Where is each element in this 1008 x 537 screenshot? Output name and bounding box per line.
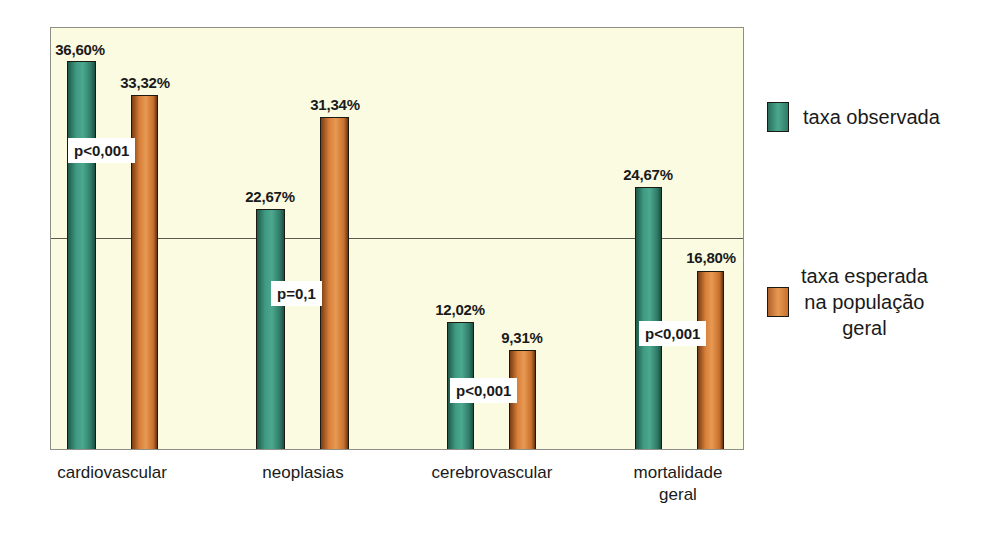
value-label-expected-neoplasias: 31,34% — [310, 96, 360, 113]
value-label-expected-cerebrovascular: 9,31% — [501, 329, 543, 346]
category-label-cardiovascular: cardiovascular — [57, 462, 167, 484]
category-label-neoplasias: neoplasias — [262, 462, 343, 484]
legend-label-expected: taxa esperada na população geral — [801, 263, 928, 341]
value-label-observed-cerebrovascular: 12,02% — [435, 301, 485, 318]
p-value-neoplasias: p=0,1 — [271, 281, 322, 306]
legend-label-line: na população — [801, 289, 928, 315]
category-label-mortalidade-geral: mortalidade geral — [634, 462, 723, 506]
legend-swatch-expected — [767, 287, 789, 317]
bar-expected-mortalidade-geral — [697, 271, 724, 449]
legend-item-observed: taxa observada — [767, 102, 940, 132]
legend-label-line: geral — [801, 315, 928, 341]
value-label-expected-mortalidade-geral: 16,80% — [686, 249, 736, 266]
p-value-cerebrovascular: p<0,001 — [450, 378, 517, 403]
p-value-cardiovascular: p<0,001 — [68, 138, 135, 163]
bar-observed-mortalidade-geral — [635, 187, 662, 449]
legend-label-line: taxa esperada — [801, 263, 928, 289]
bar-observed-neoplasias — [256, 209, 285, 449]
legend-swatch-observed — [767, 102, 789, 132]
category-label-line: mortalidade — [634, 462, 723, 484]
legend-label-observed: taxa observada — [803, 104, 940, 130]
bar-expected-neoplasias — [320, 117, 349, 449]
legend-item-expected: taxa esperada na população geral — [767, 263, 928, 341]
bar-observed-cardiovascular — [67, 61, 96, 449]
value-label-observed-neoplasias: 22,67% — [245, 188, 295, 205]
p-value-mortalidade-geral: p<0,001 — [639, 321, 706, 346]
value-label-observed-cardiovascular: 36,60% — [55, 41, 105, 58]
value-label-expected-cardiovascular: 33,32% — [120, 74, 170, 91]
value-label-observed-mortalidade-geral: 24,67% — [623, 166, 673, 183]
category-label-cerebrovascular: cerebrovascular — [432, 462, 553, 484]
category-label-line: geral — [634, 484, 723, 506]
